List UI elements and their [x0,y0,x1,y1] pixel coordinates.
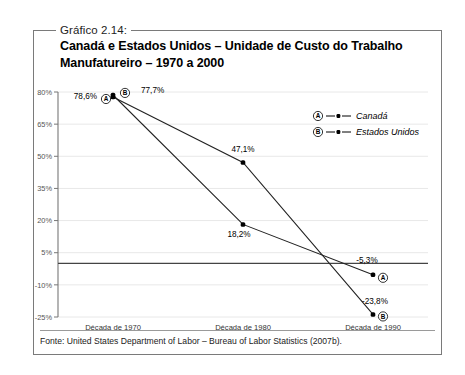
series-badge-b: B [313,127,322,136]
series-badge-a: A [101,94,110,103]
y-axis-tick-label: 80% [37,88,52,97]
data-point-label: 18,2% [227,230,250,239]
y-axis-tick-label: 50% [37,152,52,161]
series-line-b [113,97,373,315]
chart-plot-area: 80%65%50%35%20%5%-10%-25%Década de 1970D… [33,30,442,355]
chart-page: Gráfico 2.14: Canadá e Estados Unidos – … [0,0,465,375]
y-axis-tick-label: -25% [35,313,53,322]
data-point-marker [371,312,376,317]
y-axis-tick-label: 20% [37,216,52,225]
figure-source: Fonte: United States Department of Labor… [40,336,440,346]
svg-text:B: B [123,89,128,96]
series-badge-b: B [378,312,387,321]
y-axis-tick-label: 65% [37,120,52,129]
data-point-label: 78,6% [74,92,97,101]
data-point-label: 47,1% [231,145,254,154]
data-point-marker [241,160,246,165]
y-axis-tick-label: -10% [35,281,53,290]
series-badge-a: A [378,273,387,282]
footer-divider [40,330,435,331]
legend-label-b: Estados Unidos [356,127,420,137]
data-point-marker [371,272,376,277]
svg-text:A: A [381,274,386,281]
series-badge-b: B [120,88,129,97]
series-badge-a: A [313,111,322,120]
data-point-label: -5,3% [356,256,377,265]
legend-label-a: Canadá [356,111,388,121]
svg-text:A: A [104,95,109,102]
data-point-marker [111,95,116,100]
series-line-a [113,95,373,275]
svg-text:B: B [316,128,321,135]
data-point-label: 77,7% [141,86,164,95]
data-point-label: -23,8% [362,297,388,306]
svg-text:B: B [381,313,386,320]
data-point-marker [241,222,246,227]
y-axis-tick-label: 5% [41,248,52,257]
y-axis-tick-label: 35% [37,184,52,193]
line-chart: 80%65%50%35%20%5%-10%-25%Década de 1970D… [33,30,442,355]
svg-text:A: A [316,112,321,119]
